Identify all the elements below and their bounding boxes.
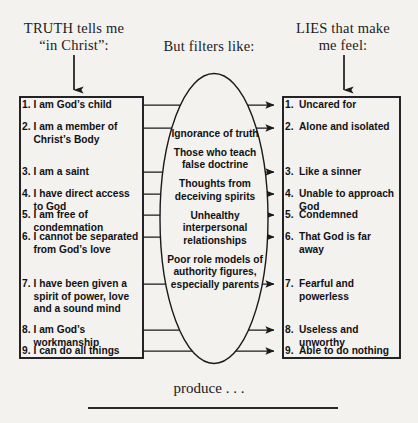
lies-header-line2: me feel: xyxy=(278,37,408,54)
truth-header: TRUTH tells me “in Christ”: xyxy=(8,20,140,54)
produce-caption: produce . . . xyxy=(148,380,270,397)
lies-box xyxy=(283,97,400,358)
lies-item-num: 2. xyxy=(285,121,296,134)
truth-item-num: 5. xyxy=(22,209,31,222)
list-item: 9.I can do all things xyxy=(22,345,141,358)
lies-item-num: 7. xyxy=(285,278,296,291)
list-item: 9.Able to do nothing xyxy=(285,345,398,358)
lies-header: LIES that make me feel: xyxy=(278,20,408,54)
list-item: 3.Like a sinner xyxy=(285,166,398,179)
truth-item-num: 4. xyxy=(22,188,31,201)
lies-item-label: That God is far away xyxy=(299,231,398,256)
lies-header-line1: LIES that make xyxy=(278,20,408,37)
truth-header-line2: “in Christ”: xyxy=(8,37,140,54)
truth-header-line1: TRUTH tells me xyxy=(8,20,140,37)
list-item: 2.Alone and isolated xyxy=(285,121,398,134)
lies-item-label: Alone and isolated xyxy=(299,121,398,134)
filter-header: But filters like: xyxy=(148,38,270,55)
filter-header-line1: But filters like: xyxy=(148,38,270,55)
lies-item-label: Able to do nothing xyxy=(299,345,398,358)
filter-item: Poor role models of authority figures, e… xyxy=(161,254,269,292)
lies-item-label: Uncared for xyxy=(299,99,398,112)
filter-item: Those who teach false doctrine xyxy=(161,147,269,172)
truth-item-num: 8. xyxy=(22,324,31,337)
truth-item-label: I can do all things xyxy=(34,345,142,358)
lies-item-num: 9. xyxy=(285,345,296,358)
truth-item-num: 1. xyxy=(22,99,31,112)
lies-item-label: Like a sinner xyxy=(299,166,398,179)
lies-item-num: 6. xyxy=(285,231,296,244)
list-item: 7.Fearful and powerless xyxy=(285,278,398,303)
list-item: 6.I cannot be separated from God’s love xyxy=(22,231,141,256)
lies-item-num: 4. xyxy=(285,188,296,201)
lies-item-label: Fearful and powerless xyxy=(299,278,398,303)
list-item: 7.I have been given a spirit of power, l… xyxy=(22,278,141,316)
list-item: 6.That God is far away xyxy=(285,231,398,256)
truth-item-num: 2. xyxy=(22,121,31,134)
diagram-canvas: TRUTH tells me “in Christ”: But filters … xyxy=(0,0,418,423)
lies-item-num: 1. xyxy=(285,99,296,112)
list-item: 5.Condemned xyxy=(285,209,398,222)
filter-list: Ignorance of truth Those who teach false… xyxy=(161,128,269,292)
lies-item-num: 5. xyxy=(285,209,296,222)
truth-item-num: 9. xyxy=(22,345,31,358)
filter-item: Ignorance of truth xyxy=(161,128,269,141)
truth-item-label: I am a saint xyxy=(34,166,142,179)
truth-item-label: I cannot be separated from God’s love xyxy=(34,231,142,256)
truth-item-num: 7. xyxy=(22,278,31,291)
truth-item-label: I am God’s child xyxy=(34,99,142,112)
list-item: 1.I am God’s child xyxy=(22,99,141,112)
truth-item-num: 6. xyxy=(22,231,31,244)
filter-item: Thoughts from deceiving spirits xyxy=(161,178,269,203)
list-item: 3.I am a saint xyxy=(22,166,141,179)
list-item: 1.Uncared for xyxy=(285,99,398,112)
lies-item-num: 3. xyxy=(285,166,296,179)
truth-item-label: I have been given a spirit of power, lov… xyxy=(34,278,142,316)
lies-item-num: 8. xyxy=(285,324,296,337)
list-item: 2.I am a member of Christ’s Body xyxy=(22,121,141,146)
truth-item-label: I am a member of Christ’s Body xyxy=(34,121,142,146)
filter-item: Unhealthy interpersonal relationships xyxy=(161,210,269,248)
lies-item-label: Condemned xyxy=(299,209,398,222)
truth-item-num: 3. xyxy=(22,166,31,179)
